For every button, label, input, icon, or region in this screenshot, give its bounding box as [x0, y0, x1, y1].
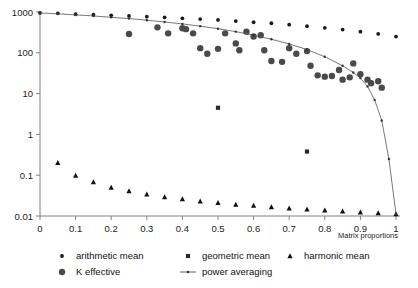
y-tick-label: 10 [22, 88, 33, 99]
legend-label: power averaging [202, 266, 272, 277]
data-point [222, 30, 228, 36]
data-point [322, 73, 328, 79]
data-point [379, 84, 385, 90]
chart-background [0, 0, 418, 288]
data-point [252, 20, 256, 24]
data-point [183, 26, 189, 32]
legend-line-dot [187, 271, 190, 274]
x-tick-label: 0 [37, 223, 42, 234]
curve-point [199, 25, 201, 27]
x-tick-label: 0.5 [211, 223, 224, 234]
curve-point [288, 43, 290, 45]
curve-point [270, 38, 272, 40]
data-point [190, 30, 196, 36]
data-point [198, 17, 202, 21]
data-point [233, 40, 239, 46]
data-point [307, 63, 313, 69]
data-point [375, 78, 381, 84]
data-point [293, 51, 299, 57]
curve-point [235, 30, 237, 32]
data-point [234, 19, 238, 23]
data-point [163, 15, 167, 19]
data-point [287, 23, 291, 27]
legend-label: K effective [76, 266, 120, 277]
data-point [181, 16, 185, 20]
y-tick-label: 1000 [12, 7, 33, 18]
x-tick-label: 0.1 [69, 223, 82, 234]
curve-point [352, 71, 354, 73]
curve-point [324, 56, 326, 58]
chart-figure: 10001001010.10.01 00.10.20.30.40.50.60.7… [0, 0, 418, 288]
data-point [236, 47, 242, 53]
legend-label: harmonic mean [304, 250, 369, 261]
curve-point [146, 19, 148, 21]
y-tick-label: 1 [28, 129, 33, 140]
x-tick-label: 0.3 [140, 223, 153, 234]
data-point [323, 26, 327, 30]
data-point [126, 31, 132, 37]
y-tick-label: 0.1 [20, 170, 33, 181]
curve-point [74, 14, 76, 16]
curve-point [252, 34, 254, 36]
data-point [279, 59, 285, 65]
x-tick-label: 0.8 [318, 223, 331, 234]
y-tick-label: 0.01 [15, 211, 34, 222]
curve-point [306, 48, 308, 50]
legend-marker-square [186, 254, 190, 258]
data-point [347, 74, 353, 80]
data-point [376, 32, 380, 36]
curve-point [57, 13, 59, 15]
curve-point [163, 21, 165, 23]
data-point [359, 30, 363, 34]
y-tick-label: 100 [17, 47, 33, 58]
data-point [305, 149, 309, 153]
data-point [216, 18, 220, 22]
curve-point [341, 65, 343, 67]
legend-label: arithmetic mean [76, 250, 144, 261]
data-point [368, 80, 374, 86]
data-point [127, 14, 131, 18]
data-point [216, 106, 220, 110]
curve-point [388, 158, 390, 160]
curve-point [128, 17, 130, 19]
data-point [145, 15, 149, 19]
curve-point [181, 23, 183, 25]
x-tick-label: 0.2 [105, 223, 118, 234]
data-point [329, 73, 335, 79]
curve-point [366, 85, 368, 87]
data-point [341, 28, 345, 32]
data-point [261, 47, 267, 53]
x-axis-title: Matrix proportions [338, 231, 398, 240]
curve-point [395, 213, 397, 215]
curve-point [110, 16, 112, 18]
curve-point [381, 119, 383, 121]
data-point [314, 72, 320, 78]
data-point [154, 24, 160, 30]
data-point [270, 21, 274, 25]
curve-point [373, 99, 375, 101]
data-point [339, 76, 345, 82]
legend-marker-small-dot [60, 254, 64, 258]
data-point [215, 46, 221, 52]
data-point [305, 24, 309, 28]
data-point [197, 45, 203, 51]
curve-point [39, 12, 41, 14]
scatter-log-chart: 10001001010.10.01 00.10.20.30.40.50.60.7… [0, 0, 418, 288]
data-point [394, 35, 398, 39]
legend-marker-circle [59, 269, 65, 275]
curve-point [217, 27, 219, 29]
legend-label: geometric mean [202, 250, 270, 261]
curve-point [92, 15, 94, 17]
x-tick-label: 0.7 [283, 223, 296, 234]
curve-point [359, 77, 361, 79]
data-point [268, 58, 274, 64]
x-tick-label: 0.4 [176, 223, 189, 234]
x-tick-label: 0.6 [247, 223, 260, 234]
data-point [286, 45, 292, 51]
data-point [336, 67, 342, 73]
data-point [204, 51, 210, 57]
data-point [165, 30, 171, 36]
data-point [350, 60, 356, 66]
